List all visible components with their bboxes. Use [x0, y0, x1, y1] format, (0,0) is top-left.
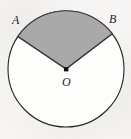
- center-point-marker-icon: [64, 67, 68, 71]
- vertex-label-b: B: [109, 13, 116, 25]
- vertex-label-a: A: [12, 14, 19, 26]
- circle-sector-figure: A B O: [0, 0, 131, 139]
- vertex-label-o: O: [62, 76, 71, 88]
